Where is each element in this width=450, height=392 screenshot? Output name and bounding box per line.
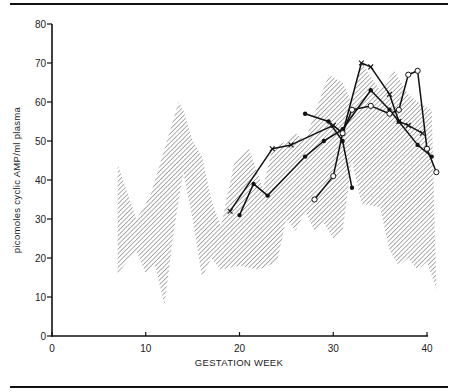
open-circle-marker (396, 107, 401, 112)
normal-range-band (118, 63, 437, 305)
filled-dot-marker (322, 139, 326, 143)
filled-dot-marker (415, 143, 419, 147)
x-tick-label: 0 (49, 343, 55, 354)
y-tick-label: 50 (35, 136, 47, 147)
hatched-band (118, 63, 437, 305)
y-tick-label: 0 (40, 331, 46, 342)
x-tick-label: 10 (140, 343, 152, 354)
filled-dot-marker (326, 119, 330, 123)
filled-dot-marker (369, 88, 373, 92)
x-axis: 010203040 (49, 332, 433, 354)
open-circle-marker (340, 131, 345, 136)
filled-dot-marker (350, 186, 354, 190)
filled-dot-marker (251, 182, 255, 186)
open-circle-marker (434, 170, 439, 175)
chart: 01020304050607080 010203040 GESTATION WE… (0, 0, 450, 392)
open-circle-marker (406, 72, 411, 77)
open-circle-marker (312, 197, 317, 202)
y-tick-label: 60 (35, 97, 47, 108)
open-circle-marker (424, 146, 429, 151)
y-axis: 01020304050607080 (35, 19, 52, 342)
filled-dot-marker (397, 119, 401, 123)
filled-dot-marker (265, 193, 269, 197)
x-tick-label: 40 (421, 343, 433, 354)
y-tick-label: 10 (35, 292, 47, 303)
y-tick-label: 80 (35, 19, 47, 30)
x-tick-label: 20 (234, 343, 246, 354)
open-circle-marker (349, 107, 354, 112)
y-tick-label: 30 (35, 214, 47, 225)
y-tick-label: 20 (35, 253, 47, 264)
y-tick-label: 70 (35, 58, 47, 69)
x-tick-label: 30 (328, 343, 340, 354)
open-circle-marker (368, 103, 373, 108)
filled-dot-marker (303, 112, 307, 116)
filled-dot-marker (237, 213, 241, 217)
open-circle-marker (331, 174, 336, 179)
filled-dot-marker (303, 154, 307, 158)
open-circle-marker (387, 111, 392, 116)
x-axis-title: GESTATION WEEK (195, 357, 284, 368)
y-tick-label: 40 (35, 175, 47, 186)
y-axis-title: picomoles cyclic AMP/ml plasma (11, 106, 22, 253)
open-circle-marker (415, 68, 420, 73)
